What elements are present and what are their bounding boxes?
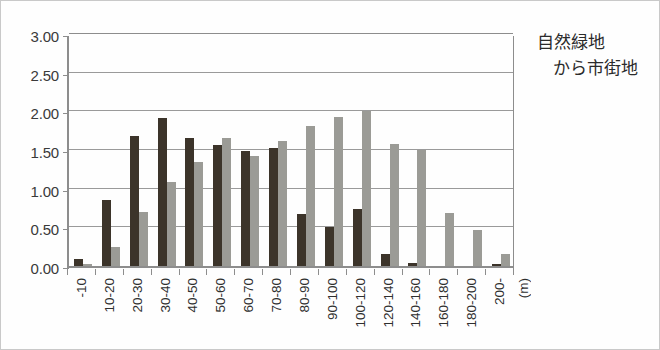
- x-axis-tick-mark: [402, 269, 403, 275]
- bar-dark: [241, 151, 250, 266]
- bar-group: [292, 36, 320, 266]
- gridline: [69, 33, 513, 34]
- bar-group: [348, 36, 376, 266]
- x-axis-tick-mark: [151, 269, 152, 275]
- bar-group: [125, 36, 153, 266]
- bar-dark: [297, 214, 306, 266]
- y-axis-tick-label: 3.00: [1, 28, 59, 45]
- x-axis-tick-label: 100-120: [353, 278, 368, 328]
- x-axis-tick-mark: [262, 269, 263, 275]
- x-axis-tick-mark: [513, 269, 514, 275]
- y-axis-tick-mark: [63, 113, 69, 114]
- bar-light: [473, 230, 482, 266]
- bar-group: [320, 36, 348, 266]
- bar-dark: [102, 200, 111, 266]
- y-axis: 0.000.501.001.502.002.503.00: [1, 1, 59, 350]
- bar-light: [278, 141, 287, 266]
- bar-dark: [158, 118, 167, 266]
- bar-light: [390, 144, 399, 266]
- bar-group: [459, 36, 487, 266]
- bar-dark: [325, 227, 334, 266]
- x-axis-tick-mark: [346, 269, 347, 275]
- x-axis-tick-mark: [95, 269, 96, 275]
- x-axis-tick-label: 140-160: [408, 278, 423, 328]
- y-axis-tick-mark: [63, 268, 69, 269]
- bar-dark: [269, 148, 278, 266]
- bar-light: [306, 126, 315, 266]
- y-axis-tick-mark: [63, 191, 69, 192]
- bar-dark: [381, 254, 390, 266]
- bar-light: [111, 247, 120, 266]
- x-axis-tick-label: 200-: [492, 278, 507, 305]
- x-axis-tick-label: 30-40: [158, 278, 173, 313]
- bar-dark: [408, 263, 417, 266]
- bar-light: [139, 212, 148, 266]
- y-axis-tick-mark: [63, 152, 69, 153]
- chart-figure: 0.000.501.001.502.002.503.00 (m) 自然緑地 から…: [0, 0, 660, 350]
- annotation-line-1: 自然緑地: [537, 32, 605, 52]
- y-axis-tick-mark: [63, 229, 69, 230]
- bar-light: [417, 150, 426, 266]
- plot-right-border: [513, 36, 514, 269]
- bar-light: [362, 111, 371, 266]
- bar-group: [264, 36, 292, 266]
- bar-group: [97, 36, 125, 266]
- x-axis-tick-label: 180-200: [464, 278, 479, 328]
- bar-dark: [130, 136, 139, 266]
- x-axis-tick-label: 80-90: [297, 278, 312, 313]
- bar-light: [250, 156, 259, 266]
- plot-area: [67, 36, 513, 268]
- x-axis-tick-mark: [374, 269, 375, 275]
- bar-light: [334, 117, 343, 266]
- bar-dark: [185, 138, 194, 266]
- x-axis-tick-label: 20-30: [130, 278, 145, 313]
- bar-dark: [353, 209, 362, 266]
- x-axis-tick-mark: [318, 269, 319, 275]
- x-axis-tick-label: 160-180: [436, 278, 451, 328]
- x-axis-tick-mark: [485, 269, 486, 275]
- y-axis-tick-mark: [63, 75, 69, 76]
- bar-group: [236, 36, 264, 266]
- chart-annotation: 自然緑地 から市街地: [537, 29, 638, 82]
- y-axis-tick-mark: [63, 36, 69, 37]
- y-axis-tick-label: 0.00: [1, 260, 59, 277]
- bar-group: [181, 36, 209, 266]
- x-axis-tick-mark: [206, 269, 207, 275]
- bar-group: [487, 36, 515, 266]
- x-axis-tick-label: 10-20: [102, 278, 117, 313]
- bar-group: [153, 36, 181, 266]
- y-axis-tick-label: 2.50: [1, 66, 59, 83]
- y-axis-tick-label: 0.50: [1, 221, 59, 238]
- x-axis-tick-mark: [290, 269, 291, 275]
- bar-dark: [74, 259, 83, 266]
- bar-group: [376, 36, 404, 266]
- x-axis-tick-mark: [67, 269, 68, 275]
- bar-group: [69, 36, 97, 266]
- bar-group: [404, 36, 432, 266]
- x-axis-tick-mark: [429, 269, 430, 275]
- x-axis-tick-label: 60-70: [241, 278, 256, 313]
- x-axis-tick-mark: [179, 269, 180, 275]
- y-axis-tick-label: 2.00: [1, 105, 59, 122]
- x-axis-tick-mark: [234, 269, 235, 275]
- x-axis-tick-label: 70-80: [269, 278, 284, 313]
- bar-light: [501, 254, 510, 266]
- bar-light: [194, 162, 203, 266]
- x-axis-tick-mark: [123, 269, 124, 275]
- y-axis-tick-label: 1.00: [1, 182, 59, 199]
- x-axis-tick-label: 90-100: [325, 278, 340, 320]
- y-axis-tick-label: 1.50: [1, 144, 59, 161]
- x-axis-tick-label: 50-60: [213, 278, 228, 313]
- bar-group: [431, 36, 459, 266]
- bar-light: [222, 138, 231, 266]
- x-axis-tick-label: 40-50: [185, 278, 200, 313]
- bar-group: [208, 36, 236, 266]
- x-axis-tick-label: -10: [74, 278, 89, 298]
- bar-dark: [213, 145, 222, 266]
- x-axis-tick-mark: [457, 269, 458, 275]
- annotation-line-2: から市街地: [537, 55, 638, 81]
- bar-dark: [492, 264, 501, 266]
- bar-light: [167, 182, 176, 266]
- x-axis-unit-label: (m): [516, 278, 531, 298]
- bar-light: [83, 264, 92, 266]
